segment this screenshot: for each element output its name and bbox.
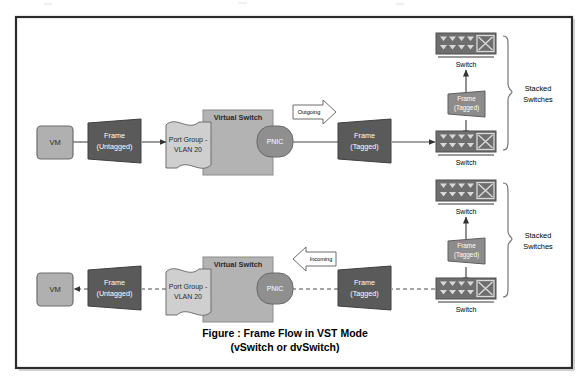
vm-node: VM [37, 273, 73, 306]
switch-bottom-label: Switch [456, 159, 477, 166]
switch-top-label: Switch [456, 61, 477, 68]
caption-line-2: (vSwitch or dvSwitch) [230, 341, 339, 353]
stacked-switches-line2: Switches [523, 95, 553, 104]
frame-tagged-stack-line1: Frame [457, 95, 476, 102]
diagram-canvas: VM Frame (Untagged) Virtual Switch Port … [0, 0, 588, 386]
switch-base-shadow [438, 203, 494, 205]
frame-tagged-line1: Frame [354, 278, 375, 287]
pnic-label: PNIC [267, 285, 284, 292]
frame-tagged-stack-line2: (Tagged) [454, 251, 479, 259]
pnic-node: PNIC [257, 273, 293, 304]
vm-node: VM [37, 126, 73, 159]
frame-tagged-node: Frame (Tagged) [338, 266, 391, 310]
vm-label: VM [49, 285, 60, 294]
switch-icon [436, 33, 496, 54]
frame-tagged-line2: (Tagged) [350, 142, 378, 151]
port-group-line2: VLAN 20 [174, 146, 202, 153]
frame-untagged-node: Frame (Untagged) [88, 119, 141, 163]
switch-base-shadow [438, 56, 494, 58]
frame-tagged-stack-node: Frame (Tagged) [448, 238, 485, 264]
frame-tagged-line1: Frame [354, 131, 375, 140]
port-group-node: Port Group - VLAN 20 [166, 269, 211, 316]
frame-tagged-stack-node: Frame (Tagged) [448, 91, 485, 117]
frame-tagged-node: Frame (Tagged) [338, 119, 391, 163]
port-group-node: Port Group - VLAN 20 [166, 122, 211, 169]
pnic-node: PNIC [257, 126, 293, 157]
frame-untagged-line1: Frame [104, 131, 125, 140]
port-group-line1: Port Group - [169, 136, 208, 144]
frame-tagged-stack-line1: Frame [457, 242, 476, 249]
switch-base-shadow [438, 301, 494, 303]
switch-bottom-label: Switch [456, 306, 477, 313]
virtual-switch-label: Virtual Switch [214, 113, 263, 122]
virtual-switch-label: Virtual Switch [214, 260, 263, 269]
pnic-label: PNIC [267, 138, 284, 145]
stacked-switches-line1: Stacked [525, 84, 552, 93]
frame-tagged-line2: (Tagged) [350, 289, 378, 298]
frame-untagged-node: Frame (Untagged) [88, 266, 141, 310]
frame-untagged-line2: (Untagged) [97, 289, 133, 298]
outgoing-label: Outgoing [298, 109, 321, 115]
incoming-label: Incoming [310, 256, 333, 262]
port-group-line1: Port Group - [169, 283, 208, 291]
caption-line-1: Figure : Frame Flow in VST Mode [202, 327, 368, 339]
switch-base-shadow [438, 154, 494, 156]
port-group-line2: VLAN 20 [174, 293, 202, 300]
frame-untagged-line2: (Untagged) [97, 142, 133, 151]
stacked-switches-line1: Stacked [525, 231, 552, 240]
frame-tagged-stack-line2: (Tagged) [454, 104, 479, 112]
vm-label: VM [49, 138, 60, 147]
stacked-switches-line2: Switches [523, 242, 553, 251]
switch-top-label: Switch [456, 208, 477, 215]
frame-untagged-line1: Frame [104, 278, 125, 287]
